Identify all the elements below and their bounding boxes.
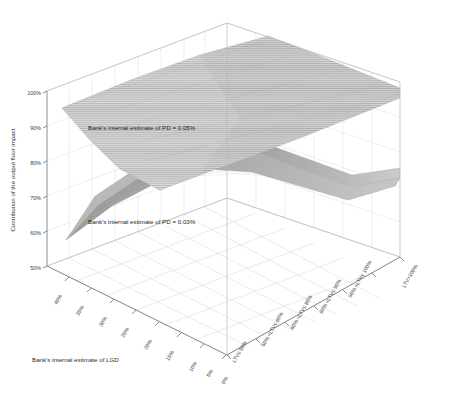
x-tick-label: 30%: [97, 315, 108, 327]
x-tick-label: 25%: [119, 326, 130, 338]
z-tick-label: 70%: [30, 195, 41, 201]
x-tick-label: 35%: [74, 304, 85, 316]
figure-3d-surface-plot: 100% 90% 80% 70% 60% 50% Contribution of…: [0, 0, 452, 409]
x-tick-label: 15%: [164, 349, 175, 361]
x-tick-label: 5%: [205, 368, 214, 378]
y-axis-ltv: [227, 257, 404, 359]
z-axis-title: Contribution of the output floor impact: [9, 128, 16, 231]
z-axis: [43, 91, 47, 268]
y-tick-label: LTV>100%: [401, 263, 419, 288]
x-tick-label: 20%: [142, 338, 153, 350]
z-tick-label: 60%: [30, 230, 41, 236]
annotation-pd-003: Bank's internal estimate of PD = 0.03%: [88, 218, 196, 225]
x-tick-labels-lgd: 40% 35% 30% 25% 20% 15% 10% 5% 0%: [52, 293, 229, 385]
plot-canvas: 100% 90% 80% 70% 60% 50% Contribution of…: [0, 0, 452, 409]
x-axis-title: Bank's internal estimate of LGD: [32, 356, 119, 363]
z-tick-label: 90%: [30, 125, 41, 131]
annotation-pd-005: Bank's internal estimate of PD = 0.05%: [88, 124, 196, 131]
z-tick-label: 50%: [30, 265, 41, 271]
y-tick-label: 60% <LTV≤ 80%: [289, 294, 314, 331]
y-tick-labels-ltv: LTV≤ 50% 50% <LTV≤ 60% 60% <LTV≤ 80% 80%…: [231, 259, 419, 363]
z-tick-labels: 100% 90% 80% 70% 60% 50%: [27, 90, 41, 271]
z-tick-label: 80%: [30, 160, 41, 166]
x-tick-label: 10%: [187, 360, 198, 372]
x-tick-label: 0%: [220, 375, 229, 385]
z-tick-label: 100%: [27, 90, 41, 96]
x-tick-label: 40%: [52, 293, 63, 305]
